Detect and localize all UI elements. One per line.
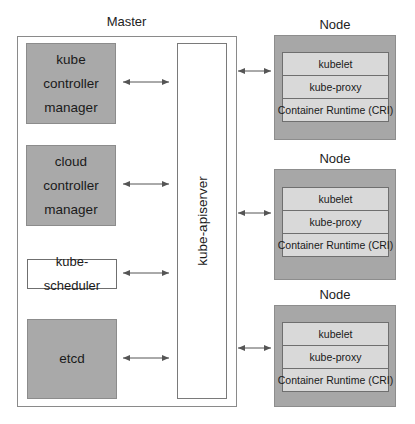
node-row-kubelet: kubelet (283, 53, 388, 76)
node-row-container-runtime: Container Runtime (CRI) (283, 234, 388, 256)
node-box: kubelet kube-proxy Container Runtime (CR… (274, 305, 396, 407)
node-title: Node (274, 287, 396, 302)
node-box: kubelet kube-proxy Container Runtime (CR… (274, 35, 396, 140)
node-row-kubelet: kubelet (283, 323, 388, 346)
node-components: kubelet kube-proxy Container Runtime (CR… (282, 52, 389, 122)
node-row-container-runtime: Container Runtime (CRI) (283, 369, 388, 391)
node-title: Node (274, 151, 396, 166)
node-row-kube-proxy: kube-proxy (283, 211, 388, 234)
node-row-kubelet: kubelet (283, 188, 388, 211)
node-components: kubelet kube-proxy Container Runtime (CR… (282, 187, 389, 257)
node-row-container-runtime: Container Runtime (CRI) (283, 99, 388, 121)
node-components: kubelet kube-proxy Container Runtime (CR… (282, 322, 389, 392)
node-row-kube-proxy: kube-proxy (283, 346, 388, 369)
node-row-kube-proxy: kube-proxy (283, 76, 388, 99)
node-box: kubelet kube-proxy Container Runtime (CR… (274, 169, 396, 280)
node-title: Node (274, 17, 396, 32)
